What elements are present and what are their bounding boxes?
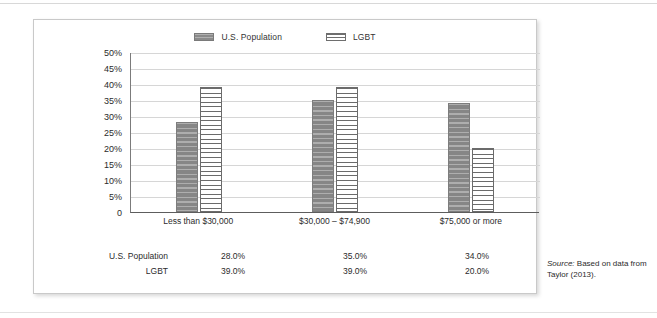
- source-note: Source: Based on data from Taylor (2013)…: [547, 258, 655, 280]
- chart-legend: U.S. Population LGBT: [34, 32, 536, 42]
- table-row: LGBT39.0%39.0%20.0%: [34, 263, 538, 278]
- legend-label-us-population: U.S. Population: [221, 32, 282, 42]
- table-row-values: 39.0%39.0%20.0%: [172, 266, 538, 276]
- table-row-values: 28.0%35.0%34.0%: [172, 251, 538, 261]
- table-row-label: U.S. Population: [34, 251, 172, 261]
- bar-us-population: [448, 103, 470, 212]
- bar-lgbt: [200, 87, 222, 212]
- bar-group: [267, 53, 403, 212]
- y-axis-tick-label: 50%: [64, 48, 122, 58]
- y-axis-tick-label: 45%: [64, 64, 122, 74]
- y-axis-tick-label: 35%: [64, 96, 122, 106]
- y-axis-tick-label: 20%: [64, 144, 122, 154]
- bar-lgbt: [472, 148, 494, 212]
- y-axis-tick-label: 15%: [64, 160, 122, 170]
- table-cell: 28.0%: [172, 251, 294, 261]
- legend-entry-us-population: U.S. Population: [194, 32, 282, 42]
- page-top-rule: [0, 3, 657, 4]
- legend-swatch-lgbt-icon: [326, 33, 346, 41]
- x-axis-category-label: $30,000 – $74,900: [266, 216, 402, 226]
- data-table: U.S. Population28.0%35.0%34.0%LGBT39.0%3…: [34, 248, 538, 278]
- x-axis-category-labels: Less than $30,000$30,000 – $74,900$75,00…: [130, 216, 539, 226]
- page-bottom-rule: [0, 312, 657, 313]
- table-cell: 39.0%: [172, 266, 294, 276]
- table-cell: 34.0%: [416, 251, 538, 261]
- figure-frame: U.S. Population LGBT 50%45%40%35%30%25%2…: [33, 19, 537, 294]
- table-row: U.S. Population28.0%35.0%34.0%: [34, 248, 538, 263]
- bar-us-population: [176, 122, 198, 212]
- y-axis-tick-label: 25%: [64, 128, 122, 138]
- x-axis-category-label: $75,000 or more: [403, 216, 539, 226]
- bar-group: [403, 53, 539, 212]
- legend-label-lgbt: LGBT: [353, 32, 376, 42]
- source-prefix: Source:: [547, 259, 575, 268]
- plot-area: [130, 53, 539, 213]
- legend-entry-lgbt: LGBT: [326, 32, 376, 42]
- table-cell: 39.0%: [294, 266, 416, 276]
- bar-us-population: [312, 100, 334, 212]
- y-axis-tick-label: 40%: [64, 80, 122, 90]
- table-cell: 35.0%: [294, 251, 416, 261]
- legend-swatch-us-population-icon: [194, 33, 214, 41]
- bar-lgbt: [336, 87, 358, 212]
- y-axis-tick-label: 10%: [64, 176, 122, 186]
- table-cell: 20.0%: [416, 266, 538, 276]
- y-axis-tick-labels: 50%45%40%35%30%25%20%15%10%5%0: [64, 53, 122, 245]
- y-axis-tick-label: 0: [64, 208, 122, 218]
- y-axis-tick-label: 5%: [64, 192, 122, 202]
- y-axis-tick-label: 30%: [64, 112, 122, 122]
- table-row-label: LGBT: [34, 266, 172, 276]
- x-axis-category-label: Less than $30,000: [130, 216, 266, 226]
- bar-groups: [131, 53, 539, 212]
- plot-area-wrapper: 50%45%40%35%30%25%20%15%10%5%0 Less than…: [34, 53, 538, 245]
- bar-group: [131, 53, 267, 212]
